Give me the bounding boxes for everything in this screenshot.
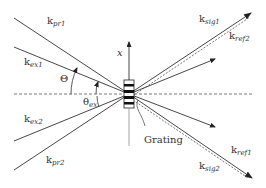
theta-ex-arc-lower (97, 96, 99, 107)
ksig1-arrow (129, 13, 251, 97)
kpr1-beam (14, 18, 129, 94)
kref1-label: kref1 (231, 145, 252, 157)
kref2-arrow (129, 59, 215, 94)
kpr2-beam (14, 94, 129, 170)
x-axis-label: x (117, 48, 123, 58)
kref1-arrow (129, 94, 215, 127)
theta-ex-arc-upper (96, 82, 98, 94)
ksig1-label: ksig1 (199, 14, 220, 26)
ksig2-label: ksig2 (199, 161, 220, 173)
theta-big-label: Θ (60, 74, 68, 84)
wave-vector-diagram (0, 0, 266, 188)
kex1-label: kex1 (24, 57, 43, 69)
theta-ex-label: θex (83, 97, 97, 109)
grating-label: Grating (144, 135, 183, 145)
kpr2-label: kpr2 (46, 155, 64, 167)
kref2-label: kref2 (229, 31, 250, 43)
kpr1-label: kpr1 (47, 16, 65, 28)
grating (124, 80, 134, 108)
kex2-label: kex2 (24, 114, 43, 126)
